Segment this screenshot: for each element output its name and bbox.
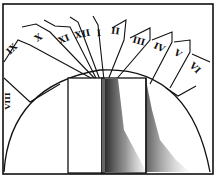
- ground-shadow: [146, 80, 190, 172]
- hour-label-ix: IX: [4, 41, 19, 56]
- hour-label-i: I: [96, 28, 101, 38]
- hour-label-xii: XII: [74, 28, 91, 41]
- hour-label-ii: II: [111, 25, 121, 36]
- hour-label-x: X: [33, 31, 44, 43]
- sundial-diagram: VIII IX X XI XII I II III IV V VI: [0, 0, 218, 179]
- hour-label-iv: IV: [152, 40, 167, 54]
- hour-label-xi: XI: [57, 32, 71, 45]
- hour-label-v: V: [171, 47, 184, 60]
- hour-label-viii: VIII: [2, 92, 12, 111]
- hour-label-iii: III: [131, 35, 146, 48]
- hour-label-vi: VI: [187, 60, 203, 76]
